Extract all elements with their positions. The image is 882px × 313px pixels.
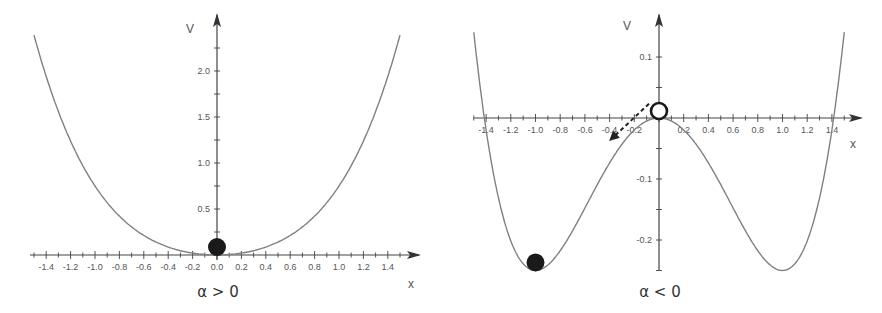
x-tick-label: 0.8 (308, 262, 321, 272)
x-tick-label: -0.6 (136, 262, 152, 272)
x-tick-label: -1.0 (528, 125, 544, 135)
x-tick-label: 1.4 (382, 262, 395, 272)
y-tick-label: -0.1 (636, 174, 652, 184)
x-tick-label: 1.0 (333, 262, 346, 272)
x-tick-label: -1.0 (87, 262, 103, 272)
ball-icon (208, 238, 226, 256)
x-tick-label: 0.6 (727, 125, 740, 135)
plot-alpha-negative: -1.4-1.2-1.0-0.8-0.6-0.4-0.20.20.40.60.8… (474, 15, 861, 301)
left-ylabel: V (186, 22, 194, 36)
unstable-ball-icon (651, 103, 667, 119)
figure: -1.4-1.2-1.0-0.8-0.6-0.4-0.20.00.20.40.6… (0, 0, 882, 313)
x-tick-label: -0.8 (552, 125, 568, 135)
y-tick-label: 1.0 (197, 158, 210, 168)
y-tick-label: -0.2 (636, 235, 652, 245)
x-tick-label: 1.0 (776, 125, 789, 135)
x-tick-label: -0.6 (577, 125, 593, 135)
x-tick-label: 1.2 (801, 125, 814, 135)
y-tick-label: 1.5 (197, 112, 210, 122)
x-tick-label: -0.4 (602, 125, 618, 135)
x-tick-label: -1.2 (503, 125, 519, 135)
x-tick-label: -0.2 (185, 262, 201, 272)
plot-alpha-positive: -1.4-1.2-1.0-0.8-0.6-0.4-0.20.00.20.40.6… (30, 15, 419, 301)
x-tick-label: 0.0 (211, 262, 224, 272)
right-ylabel: V (623, 19, 631, 33)
left-markers (208, 238, 226, 256)
x-tick-label: -1.4 (38, 262, 54, 272)
right-markers (527, 103, 668, 272)
x-tick-label: 0.2 (235, 262, 248, 272)
left-xlabel: x (408, 277, 414, 291)
x-tick-label: 1.2 (357, 262, 370, 272)
y-tick-label: 0.5 (197, 204, 210, 214)
right-caption: α < 0 (639, 283, 681, 301)
stable-ball-icon (527, 254, 545, 272)
x-tick-label: 0.6 (284, 262, 297, 272)
x-tick-label: -0.8 (112, 262, 128, 272)
x-tick-label: 0.8 (752, 125, 765, 135)
x-tick-label: 0.4 (702, 125, 715, 135)
y-tick-label: 2.0 (197, 66, 210, 76)
right-xlabel: x (850, 137, 856, 151)
x-tick-label: 0.4 (260, 262, 273, 272)
x-tick-label: -0.4 (160, 262, 176, 272)
y-tick-label: 0.1 (639, 52, 652, 62)
x-tick-label: -1.2 (63, 262, 79, 272)
left-caption: α > 0 (197, 283, 239, 301)
